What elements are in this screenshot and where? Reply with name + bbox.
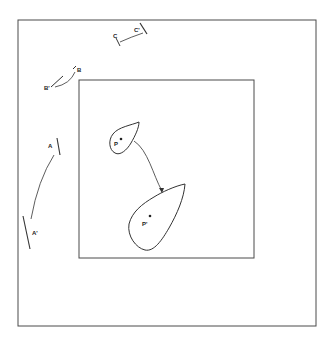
label-b-prime: B' [44,85,50,91]
segment-pair-c [116,23,147,46]
arrow-p-to-p-prime [134,141,162,191]
segment-a-prime [23,216,30,249]
region-p-prime [129,184,185,250]
segment-pair-a [23,138,60,249]
label-p: P [114,141,118,147]
label-b: B [77,67,82,73]
arrow-a-to-a-prime [31,155,54,219]
label-c: C [113,33,118,39]
segment-c [116,38,120,46]
outer-frame [18,20,316,326]
arrow-c-to-c-prime [120,33,143,42]
diagram-canvas: C C' B B' A A' P P' [0,0,333,342]
segment-c-prime [140,23,147,34]
segment-pair-b [51,66,76,87]
label-a: A [48,143,53,149]
region-p [110,122,139,154]
segment-a [57,138,60,155]
label-c-prime: C' [134,27,140,33]
point-p-prime [149,215,152,218]
label-p-prime: P' [142,221,148,227]
segment-b [73,66,76,69]
arrow-b-to-b-prime [55,72,75,87]
point-p [120,138,123,141]
label-a-prime: A' [32,230,38,236]
